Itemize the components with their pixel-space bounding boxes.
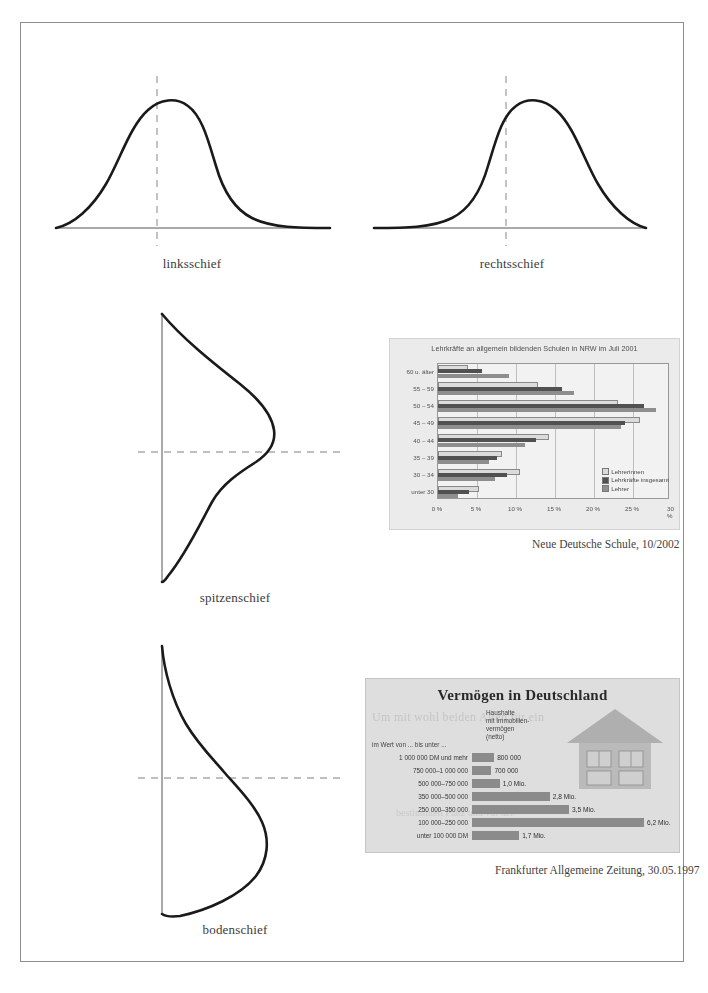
chart2-bar [472,766,491,775]
chart1-category-label: 40 – 44 [392,437,434,444]
curve-caption-linksschief: linksschief [48,256,336,272]
chart2-subtitle-line: (netto) [486,733,529,741]
chart1-gridline [594,364,595,498]
chart2-value-label: 2,8 Mio. [553,792,576,802]
chart2-category-label: 100 000–250 000 [368,818,468,828]
chart2-row: 250 000–350 0003,5 Mio. [368,804,679,817]
chart1-title: Lehrkräfte an allgemein bildenden Schule… [390,344,679,353]
chart2-bar [472,779,500,788]
curve-panel-bodenschief: bodenschief [120,636,350,920]
chart2-row: 1 000 000 DM und mehr800 000 [368,752,679,765]
chart2-value-label: 6,2 Mio. [647,818,670,828]
chart2-subtitle-line: vermögen [486,725,529,733]
chart1-x-tick: 20 % [586,505,600,512]
legend-swatch-icon [602,485,609,492]
chart2-row: 500 000–750 0001,0 Mio. [368,778,679,791]
curve-panel-rechtsschief: rechtsschief [368,48,656,248]
chart1-category-label: 45 – 49 [392,419,434,426]
chart1-x-tick: 15 % [547,505,561,512]
chart2-value-label: 1,7 Mio. [522,831,545,841]
chart2-bar [472,792,550,801]
chart2-category-label: 750 000–1 000 000 [368,766,468,776]
chart1-legend: LehrerinnenLehrkräfte insgesamtLehrer [602,468,669,494]
chart2-subtitle-line: Haushalte [486,709,529,717]
chart2-row: 750 000–1 000 000700 000 [368,765,679,778]
chart1-legend-item: Lehrer [602,485,669,494]
chart1-bar [438,494,458,498]
chart1-legend-label: Lehrkräfte insgesamt [611,476,669,485]
chart2-value-label: 3,5 Mio. [572,805,595,815]
chart1-category-label: 55 – 59 [392,385,434,392]
chart1-legend-item: Lehrerinnen [602,468,669,477]
distribution-curve [162,646,267,916]
chart1-legend-item: Lehrkräfte insgesamt [602,476,669,485]
chart1-bar [438,391,574,395]
chart1-x-tick: 30 % [667,505,675,519]
chart2-subtitle-line: mit Immobilien- [486,717,529,725]
chart2-source-caption: Frankfurter Allgemeine Zeitung, 30.05.19… [495,864,699,876]
legend-swatch-icon [602,468,609,475]
chart2-bar [472,753,494,762]
chart2-bar [472,805,569,814]
chart2-scale-note: im Wert von ... bis unter ... [372,741,446,748]
chart2-row: unter 100 000 DM1,7 Mio. [368,830,679,843]
chart1-bar [438,443,525,447]
chart2-category-label: unter 100 000 DM [368,831,468,841]
legend-swatch-icon [602,477,609,484]
chart1-legend-label: Lehrer [611,485,629,494]
chart1-category-label: 50 – 54 [392,402,434,409]
curve-caption-bodenschief: bodenschief [120,922,350,938]
curve-caption-spitzenschief: spitzenschief [120,590,350,606]
chart2-row: 100 000–250 0006,2 Mio. [368,817,679,830]
chart1-source-caption: Neue Deutsche Schule, 10/2002 [532,538,680,550]
chart2-subtitle: Haushaltemit Immobilien-vermögen(netto) [486,709,529,741]
chart1-x-tick: 25 % [625,505,639,512]
chart1-legend-label: Lehrerinnen [611,468,644,477]
chart1-bar [438,425,621,429]
chart2-bar [472,818,644,827]
chart1-x-tick: 0 % [432,505,443,512]
curve-panel-linksschief: linksschief [48,48,336,248]
chart1-bar [438,477,495,481]
chart1-gridline [555,364,556,498]
chart2-row: 350 000–500 0002,8 Mio. [368,791,679,804]
chart1-category-label: 60 u. älter [392,368,434,375]
chart1-category-label: unter 30 [392,488,434,495]
page-root: linksschief rechtsschief spitzenschief b… [0,0,708,993]
chart2-value-label: 800 000 [497,753,521,763]
distribution-curve [56,100,330,228]
chart1-category-label: 30 – 34 [392,471,434,478]
curve-caption-rechtsschief: rechtsschief [368,256,656,272]
chart2-value-label: 1,0 Mio. [503,779,526,789]
distribution-curve [162,314,274,582]
chart2-category-label: 250 000–350 000 [368,805,468,815]
chart1-bar [438,460,489,464]
chart2-category-label: 500 000–750 000 [368,779,468,789]
curve-panel-spitzenschief: spitzenschief [120,304,350,588]
chart1-category-label: 35 – 39 [392,454,434,461]
linksschief-curve-svg [48,48,336,248]
chart1-x-tick: 5 % [471,505,482,512]
chart1-bar [438,374,509,378]
chart2-category-label: 1 000 000 DM und mehr [368,753,468,763]
chart-lehrkraefte-nrw: Lehrkräfte an allgemein bildenden Schule… [389,338,680,530]
chart1-x-tick: 10 % [508,505,522,512]
chart2-value-label: 700 000 [494,766,518,776]
bodenschief-curve-svg [120,636,350,920]
chart1-bar [438,408,656,412]
distribution-curve [374,100,646,228]
chart-vermoegen-deutschland: Um mit wohl beiden Alten für ein bestimm… [365,678,680,853]
rechtsschief-curve-svg [368,48,656,248]
chart2-bar [472,831,519,840]
spitzenschief-curve-svg [120,304,350,588]
chart2-category-label: 350 000–500 000 [368,792,468,802]
chart2-title: Vermögen in Deutschland [366,687,679,704]
